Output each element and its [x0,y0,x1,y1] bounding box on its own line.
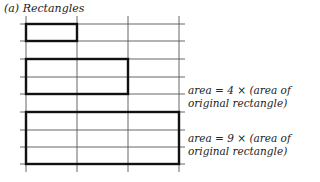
caption-line-2: original rectangle) [188,97,291,110]
caption-line-2: original rectangle) [188,145,291,158]
caption-area-4x: area = 4 × (area of original rectangle) [188,84,291,110]
caption-line-1: area = 4 × (area of [188,84,291,97]
rectangle-original [26,24,77,41]
caption-area-9x: area = 9 × (area of original rectangle) [188,132,291,158]
rectangle-scaled-3x [26,112,179,164]
caption-line-1: area = 9 × (area of [188,132,291,145]
